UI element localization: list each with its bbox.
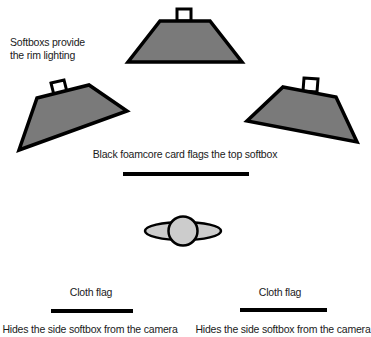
softbox-top-handle [177, 9, 191, 21]
cloth-flag-right-title: Cloth flag [259, 286, 301, 298]
softboxes-label: Softboxs provide the rim lighting [10, 36, 120, 62]
cloth-flag-right [240, 308, 327, 312]
softbox-top-body [128, 21, 242, 62]
softbox-top [128, 9, 242, 62]
foamcore-flag [123, 172, 249, 176]
softbox-right-body [247, 87, 357, 142]
cloth-flag-right-caption: Hides the side softbox from the camera [195, 323, 370, 335]
subject-head [169, 217, 198, 246]
softbox-left-body [19, 85, 127, 150]
cloth-flag-left [51, 309, 133, 313]
foamcore-flag-label: Black foamcore card flags the top softbo… [93, 148, 277, 160]
softboxes-label-line2: the rim lighting [10, 49, 75, 61]
subject [145, 217, 221, 246]
cloth-flag-left-title: Cloth flag [70, 286, 112, 298]
cloth-flag-left-caption: Hides the side softbox from the camera [2, 323, 177, 335]
softboxes-label-line1: Softboxs provide [10, 36, 85, 48]
softbox-right [247, 78, 357, 142]
softbox-left [19, 80, 127, 150]
